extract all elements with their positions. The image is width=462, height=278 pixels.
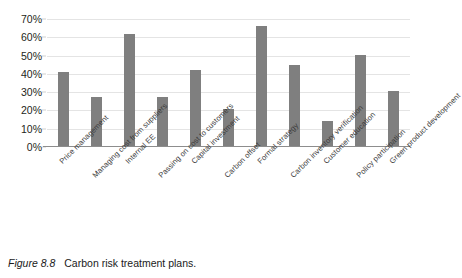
figure-caption-text: Carbon risk treatment plans. — [64, 257, 196, 269]
y-axis-tick-mark — [42, 110, 46, 111]
y-axis-tick-label: 60% — [21, 32, 42, 43]
y-axis-tick-label: 50% — [21, 50, 42, 61]
y-axis-tick-label: 40% — [21, 69, 42, 80]
y-axis-tick-mark — [42, 128, 46, 129]
y-axis-tick-label: 70% — [21, 14, 42, 25]
figure-caption: Figure 8.8Carbon risk treatment plans. — [8, 258, 196, 270]
bar — [256, 26, 267, 147]
bar — [58, 72, 69, 147]
x-axis-category-labels: Price managementManaging cost from suppl… — [0, 147, 419, 252]
y-axis-tick-mark — [42, 55, 46, 56]
y-axis-tick-mark — [42, 37, 46, 38]
y-axis-tick-label: 30% — [21, 87, 42, 98]
figure-number: Figure 8.8 — [8, 257, 55, 269]
y-axis-tick-mark — [42, 92, 46, 93]
y-axis-tick-label: 10% — [21, 123, 42, 134]
y-axis-tick-label: 20% — [21, 105, 42, 116]
y-axis-tick-mark — [42, 73, 46, 74]
y-axis-tick-mark — [42, 19, 46, 20]
